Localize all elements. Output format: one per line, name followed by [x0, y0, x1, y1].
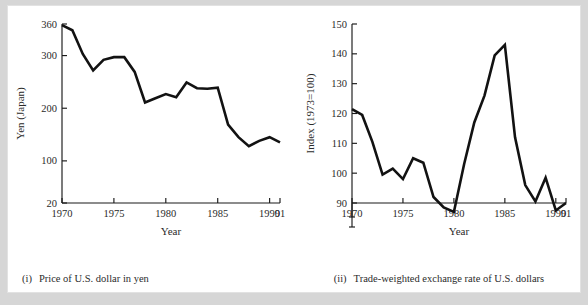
caption-yen: (i)Price of U.S. dollar in yen — [8, 273, 294, 284]
y-axis-title: Yen (Japan) — [14, 87, 27, 140]
y-tick-label: 140 — [331, 48, 347, 59]
data-series-line — [62, 25, 280, 146]
chart-panel-yen: 201002003003601970197519801985199091Year… — [8, 6, 294, 292]
y-axis-title: Index (1973=100) — [304, 73, 317, 153]
data-series-line — [352, 45, 566, 212]
x-tick-label: 1980 — [155, 208, 176, 219]
y-tick-label: 120 — [331, 108, 347, 119]
y-tick-label: 100 — [331, 168, 347, 179]
x-tick-label: 1970 — [52, 208, 73, 219]
x-axis-title: Year — [161, 225, 182, 237]
x-tick-label: 91 — [275, 208, 286, 219]
caption-number-yen: (i) — [22, 273, 32, 284]
x-tick-label: 91 — [561, 208, 572, 219]
y-tick-label: 130 — [331, 78, 347, 89]
y-tick-label: 110 — [332, 138, 347, 149]
y-tick-label: 200 — [41, 103, 57, 114]
x-axis-title: Year — [449, 225, 470, 237]
x-tick-label: 1985 — [494, 208, 515, 219]
y-tick-label: 100 — [41, 155, 57, 166]
chart-svg-yen: 201002003003601970197519801985199091Year… — [8, 6, 294, 261]
y-tick-label: 360 — [41, 19, 57, 30]
caption-text-index: Trade-weighted exchange rate of U.S. dol… — [354, 273, 545, 284]
x-tick-label: 1975 — [103, 208, 124, 219]
caption-text-yen: Price of U.S. dollar in yen — [39, 273, 149, 284]
x-tick-label: 1975 — [392, 208, 413, 219]
y-tick-label: 150 — [331, 19, 347, 30]
chart-panel-index: 9010011012013014015019701975198019851990… — [294, 6, 580, 292]
chart-svg-index: 9010011012013014015019701975198019851990… — [294, 6, 580, 261]
x-tick-label: 1985 — [207, 208, 228, 219]
caption-number-index: (ii) — [334, 273, 347, 284]
y-tick-label: 90 — [337, 198, 348, 209]
y-tick-label: 300 — [41, 50, 57, 61]
figure-page: 201002003003601970197519801985199091Year… — [8, 6, 580, 292]
caption-index: (ii)Trade-weighted exchange rate of U.S.… — [294, 273, 580, 284]
y-tick-label: 20 — [47, 198, 58, 209]
x-tick-label: 1970 — [342, 208, 363, 219]
